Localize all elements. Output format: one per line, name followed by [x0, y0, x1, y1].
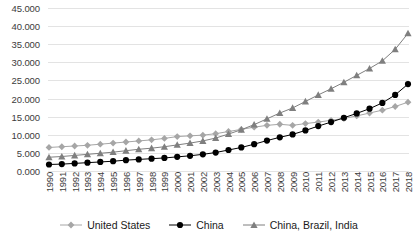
x-axis-tick-label: 2011 [313, 172, 324, 192]
y-axis-tick-label: 40.000 [12, 21, 40, 32]
data-point-marker [187, 153, 193, 159]
x-axis-tick-label: 1999 [159, 172, 170, 192]
y-axis-tick-label: 10.000 [12, 129, 40, 140]
x-axis-tick-label: 2018 [403, 172, 414, 192]
data-point-marker [289, 122, 296, 129]
data-point-marker [110, 140, 117, 147]
data-point-marker [277, 134, 283, 140]
data-point-marker [68, 222, 75, 229]
x-axis-tick-label: 2013 [339, 172, 350, 192]
data-point-marker [366, 106, 372, 112]
data-point-marker [276, 109, 283, 116]
series-china-brazil-india [45, 30, 411, 160]
legend-item[interactable]: China [168, 219, 223, 231]
data-point-marker [289, 104, 296, 111]
x-axis-tick-label: 2001 [185, 172, 196, 192]
x-axis-tick-label: 1993 [82, 172, 93, 192]
data-point-marker [71, 143, 78, 150]
data-point-marker [174, 133, 181, 140]
line-chart: 0.0005.00010.00015.00020.00025.00030.000… [0, 0, 417, 246]
data-point-marker [264, 137, 270, 143]
data-point-marker [123, 139, 130, 146]
data-point-marker [327, 85, 334, 92]
x-axis-tick-label: 1997 [134, 172, 145, 192]
data-point-marker [148, 156, 154, 162]
data-point-marker [187, 132, 194, 139]
legend-item[interactable]: China, Brazil, India [242, 219, 358, 231]
plot-area [48, 8, 409, 171]
legend-label: United States [87, 219, 150, 231]
data-point-marker [58, 143, 65, 150]
data-point-marker [405, 81, 411, 87]
y-axis-tick-label: 25.000 [12, 75, 40, 86]
data-point-marker [302, 120, 309, 127]
y-axis-tick-label: 35.000 [12, 39, 40, 50]
data-point-marker [353, 72, 360, 79]
y-axis-tick-label: 45.000 [12, 3, 40, 14]
data-point-marker [225, 147, 231, 153]
series-line [49, 102, 408, 147]
x-axis-tick-label: 2015 [365, 172, 376, 192]
legend-item[interactable]: United States [59, 219, 150, 231]
data-point-marker [290, 131, 296, 137]
x-axis-tick-label: 2005 [236, 172, 247, 192]
x-axis-tick-label: 2002 [198, 172, 209, 192]
data-point-marker [315, 91, 322, 98]
data-point-marker [404, 30, 411, 37]
data-point-marker [177, 222, 183, 228]
data-point-marker [405, 99, 412, 106]
data-point-marker [315, 123, 321, 129]
x-axis-tick-label: 2008 [275, 172, 286, 192]
x-axis-tick-label: 2017 [390, 172, 401, 192]
data-point-marker [238, 144, 244, 150]
x-axis-tick-label: 1996 [121, 172, 132, 192]
data-point-marker [341, 115, 347, 121]
data-point-marker [251, 141, 257, 147]
series-united-states [46, 99, 412, 151]
x-axis: 1990199119921993199419951996199719981999… [48, 172, 409, 208]
data-point-marker [161, 135, 168, 142]
data-point-marker [72, 160, 78, 166]
data-point-marker [123, 157, 129, 163]
y-axis-tick-label: 5.000 [17, 147, 40, 158]
data-point-marker [84, 142, 91, 149]
x-axis-tick-label: 2009 [288, 172, 299, 192]
x-axis-tick-label: 1998 [147, 172, 158, 192]
data-point-marker [200, 151, 206, 157]
data-point-marker [251, 121, 258, 128]
data-point-marker [136, 156, 142, 162]
x-axis-tick-label: 2004 [224, 172, 235, 192]
data-point-marker [328, 119, 334, 125]
data-point-marker [366, 65, 373, 72]
data-point-marker [110, 158, 116, 164]
diamond-marker [59, 219, 83, 231]
circle-marker [168, 219, 192, 231]
x-axis-tick-label: 1991 [57, 172, 68, 192]
y-axis-tick-label: 0.000 [17, 166, 40, 177]
y-axis: 0.0005.00010.00015.00020.00025.00030.000… [0, 8, 44, 171]
x-axis-tick-label: 1990 [44, 172, 55, 192]
series-line [49, 33, 408, 157]
data-point-marker [302, 127, 308, 133]
chart-legend: United StatesChinaChina, Brazil, India [0, 212, 417, 238]
x-axis-tick-label: 1992 [70, 172, 81, 192]
y-axis-tick-label: 15.000 [12, 111, 40, 122]
y-axis-tick-label: 30.000 [12, 57, 40, 68]
data-point-marker [97, 159, 103, 165]
data-point-marker [302, 98, 309, 105]
x-axis-tick-label: 1994 [95, 172, 106, 192]
data-point-marker [354, 110, 360, 116]
data-point-marker [174, 154, 180, 160]
data-point-marker [148, 136, 155, 143]
x-axis-tick-label: 1995 [108, 172, 119, 192]
data-point-marker [161, 155, 167, 161]
data-point-marker [263, 115, 270, 122]
data-point-marker [213, 149, 219, 155]
y-axis-tick-label: 20.000 [12, 93, 40, 104]
x-axis-tick-label: 2010 [300, 172, 311, 192]
data-point-marker [46, 144, 53, 151]
data-point-marker [340, 79, 347, 86]
legend-label: China, Brazil, India [270, 219, 358, 231]
data-point-marker [379, 100, 385, 106]
x-axis-tick-label: 2000 [172, 172, 183, 192]
